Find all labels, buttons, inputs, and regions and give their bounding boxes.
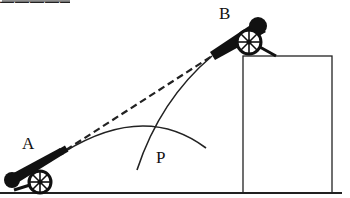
diagram-canvas: ▬▬▬▬▬▬: [0, 0, 350, 198]
line-of-sight-dashed: [66, 56, 212, 150]
cannon-a-icon: [4, 145, 68, 193]
clipped-heading-text: ▬▬▬▬▬▬: [0, 0, 70, 3]
cannon-b-icon: [210, 17, 276, 60]
trajectory-b: [137, 56, 212, 170]
building: [243, 56, 332, 193]
label-cannon-a: A: [22, 135, 34, 152]
diagram-svg: [0, 0, 350, 198]
trajectory-a: [64, 126, 206, 152]
label-cannon-b: B: [219, 5, 230, 22]
label-intersection-p: P: [156, 149, 165, 166]
